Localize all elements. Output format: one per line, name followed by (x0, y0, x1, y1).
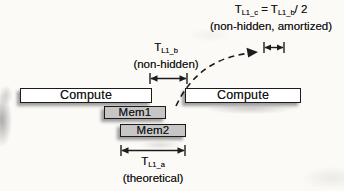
annotation-tl1b: TL1_b (non-hidden) (117, 41, 215, 71)
formula-lhs-sub: L1_c (242, 8, 258, 17)
formula-tl1c: TL1_c = TL1_b/ 2 (198, 3, 344, 20)
label-tl1b-sub: L1_b (161, 46, 178, 55)
label-tl1a-sub: L1_a (148, 160, 165, 169)
bar-compute-left: Compute (20, 88, 152, 103)
formula-rhs-sub: L1_b (278, 8, 295, 17)
bar-mem1: Mem1 (104, 106, 166, 119)
label-tl1b-note: (non-hidden) (117, 58, 215, 72)
measure-arrow-tl1a-icon (120, 144, 186, 157)
formula-equals: = (258, 3, 271, 15)
latency-hiding-timing-diagram: TL1_c = TL1_b/ 2 (non-hidden, amortized)… (0, 0, 344, 191)
formula-divisor: / 2 (295, 3, 308, 15)
annotation-tl1a: TL1_a (theoretical) (104, 155, 202, 185)
bar-compute-left-label: Compute (60, 89, 112, 102)
bar-mem1-label: Mem1 (119, 107, 152, 119)
formula-lhs-base: T (235, 3, 242, 15)
measure-arrow-tl1c-icon (263, 41, 285, 54)
annotation-tl1c: TL1_c = TL1_b/ 2 (non-hidden, amortized) (198, 3, 344, 33)
label-tl1a: TL1_a (104, 155, 202, 172)
formula-tl1c-note: (non-hidden, amortized) (198, 20, 344, 34)
label-tl1a-note: (theoretical) (104, 172, 202, 186)
measure-arrow-tl1b-icon (149, 72, 188, 85)
bar-mem2: Mem2 (120, 124, 186, 137)
label-tl1b: TL1_b (117, 41, 215, 58)
bar-mem2-label: Mem2 (137, 125, 170, 137)
bar-compute-right-label: Compute (217, 89, 269, 102)
bar-compute-right: Compute (185, 88, 301, 103)
formula-rhs-base: T (271, 3, 278, 15)
